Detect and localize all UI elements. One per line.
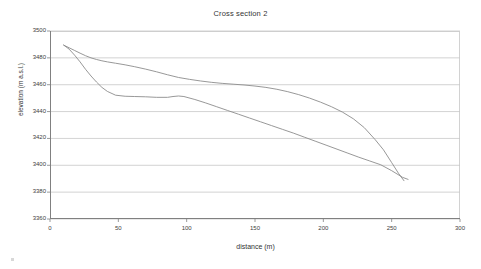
y-tick-label: 3360 [4, 215, 46, 221]
x-tick-label: 100 [167, 225, 207, 231]
y-tick-label: 3420 [4, 134, 46, 140]
series-line-1 [64, 45, 408, 179]
plot-area [50, 31, 460, 219]
y-tick-label: 3440 [4, 108, 46, 114]
x-axis-title: distance (m) [50, 243, 461, 250]
x-tick-label: 300 [440, 225, 480, 231]
plot-svg [50, 31, 460, 219]
x-tick-label: 50 [98, 225, 138, 231]
y-tick-label: 3460 [4, 81, 46, 87]
x-tick-label: 200 [303, 225, 343, 231]
y-tick-label: 3500 [4, 27, 46, 33]
artifact-speck [11, 258, 14, 261]
y-tick-label: 3480 [4, 54, 46, 60]
y-axis-title: elevation (m a.s.l.) [17, 30, 24, 150]
y-tick-label: 3380 [4, 188, 46, 194]
plot-frame [51, 32, 460, 219]
x-tick-label: 250 [372, 225, 412, 231]
x-tick-label: 150 [235, 225, 275, 231]
x-tick-label: 0 [30, 225, 70, 231]
chart-title: Cross section 2 [0, 9, 481, 18]
chart-figure: Cross section 2 elevation (m a.s.l.) dis… [0, 0, 481, 269]
y-tick-label: 3400 [4, 161, 46, 167]
